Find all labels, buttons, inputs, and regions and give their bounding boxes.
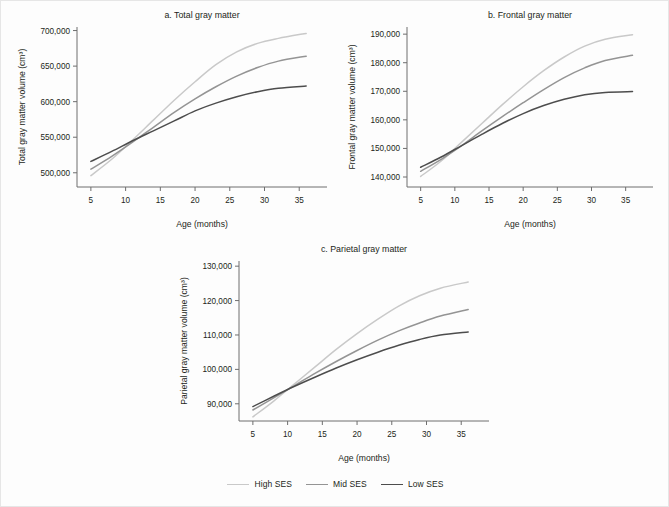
chart-title: a. Total gray matter xyxy=(164,10,239,20)
series-line-low-ses xyxy=(253,332,468,407)
x-tick-label: 35 xyxy=(295,196,305,205)
x-tick-label: 20 xyxy=(519,196,529,205)
y-axis-label: Total gray matter volume (cm³) xyxy=(17,49,27,166)
y-tick-label: 130,000 xyxy=(202,262,232,271)
y-tick-label: 600,000 xyxy=(40,98,70,107)
x-tick-label: 15 xyxy=(156,196,166,205)
chart-svg-c: c. Parietal gray matter90,000100,000110,… xyxy=(171,241,501,469)
legend-label: Mid SES xyxy=(333,479,367,489)
y-tick-label: 150,000 xyxy=(370,144,400,153)
chart-panel-parietal-gray-matter: c. Parietal gray matter90,000100,000110,… xyxy=(171,241,501,469)
legend-label: Low SES xyxy=(408,479,444,489)
x-tick-label: 10 xyxy=(283,430,293,439)
legend-item-mid-ses: Mid SES xyxy=(306,479,367,489)
y-tick-label: 110,000 xyxy=(203,331,232,340)
chart-title: b. Frontal gray matter xyxy=(488,10,572,20)
chart-svg-b: b. Frontal gray matter140,000150,000160,… xyxy=(339,7,665,235)
series-line-low-ses xyxy=(421,92,633,168)
legend-line-swatch xyxy=(306,484,328,485)
series-line-mid-ses xyxy=(421,55,633,171)
series-line-mid-ses xyxy=(253,310,468,410)
x-tick-label: 20 xyxy=(191,196,201,205)
x-tick-label: 10 xyxy=(450,196,460,205)
y-axis-label: Frontal gray matter volume (cm³) xyxy=(347,44,357,169)
legend-item-low-ses: Low SES xyxy=(381,479,444,489)
figure-legend: High SESMid SESLow SES xyxy=(1,473,669,495)
x-tick-label: 25 xyxy=(387,430,397,439)
x-tick-label: 5 xyxy=(89,196,94,205)
y-tick-label: 90,000 xyxy=(207,400,232,409)
y-axis-label: Parietal gray matter volume (cm³) xyxy=(179,277,189,405)
x-tick-label: 15 xyxy=(318,430,328,439)
y-tick-label: 170,000 xyxy=(370,87,400,96)
x-axis-label: Age (months) xyxy=(176,219,228,229)
y-tick-label: 500,000 xyxy=(40,169,70,178)
chart-panel-total-gray-matter: a. Total gray matter500,000550,000600,00… xyxy=(9,7,339,235)
y-tick-label: 140,000 xyxy=(370,173,400,182)
x-tick-label: 5 xyxy=(418,196,423,205)
y-tick-label: 190,000 xyxy=(370,30,400,39)
x-tick-label: 30 xyxy=(260,196,270,205)
x-tick-label: 30 xyxy=(422,430,432,439)
y-tick-label: 100,000 xyxy=(202,365,232,374)
y-tick-label: 650,000 xyxy=(40,62,70,71)
x-axis-label: Age (months) xyxy=(338,453,390,463)
legend-line-swatch xyxy=(381,484,403,485)
x-tick-label: 20 xyxy=(353,430,363,439)
chart-title: c. Parietal gray matter xyxy=(321,244,407,254)
y-tick-label: 120,000 xyxy=(202,297,232,306)
chart-panel-frontal-gray-matter: b. Frontal gray matter140,000150,000160,… xyxy=(339,7,665,235)
y-tick-label: 700,000 xyxy=(40,27,70,36)
series-line-high-ses xyxy=(421,35,633,177)
y-tick-label: 180,000 xyxy=(370,59,400,68)
x-tick-label: 5 xyxy=(251,430,256,439)
y-tick-label: 160,000 xyxy=(370,116,400,125)
x-tick-label: 30 xyxy=(587,196,597,205)
chart-svg-a: a. Total gray matter500,000550,000600,00… xyxy=(9,7,339,235)
x-tick-label: 35 xyxy=(621,196,631,205)
x-tick-label: 25 xyxy=(225,196,235,205)
legend-item-high-ses: High SES xyxy=(227,479,292,489)
y-tick-label: 550,000 xyxy=(40,133,70,142)
x-tick-label: 10 xyxy=(121,196,131,205)
legend-line-swatch xyxy=(227,484,249,485)
x-axis-label: Age (months) xyxy=(504,219,556,229)
series-line-mid-ses xyxy=(91,56,306,169)
x-tick-label: 25 xyxy=(553,196,563,205)
legend-label: High SES xyxy=(254,479,292,489)
figure-frame: a. Total gray matter500,000550,000600,00… xyxy=(0,0,669,507)
series-line-high-ses xyxy=(91,33,306,175)
x-tick-label: 15 xyxy=(484,196,494,205)
x-tick-label: 35 xyxy=(457,430,467,439)
